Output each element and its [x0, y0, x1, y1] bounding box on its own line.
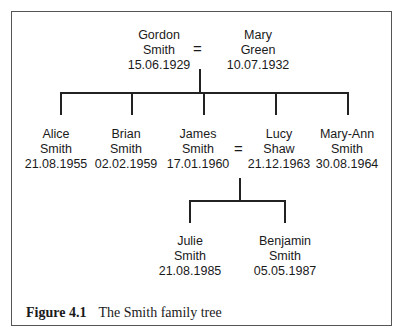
birth-date: 21.08.1985	[150, 264, 230, 279]
first-name: Gordon	[119, 28, 199, 43]
figure-caption-text: The Smith family tree	[98, 305, 221, 320]
connector-line	[131, 92, 133, 115]
connector-line	[189, 200, 191, 223]
person-mary-green: Mary Green 10.07.1932	[218, 28, 298, 73]
connector-line	[347, 92, 349, 115]
connector-line	[199, 69, 201, 93]
first-name: Benjamin	[245, 234, 325, 249]
connector-line	[60, 92, 349, 94]
last-name: Smith	[86, 142, 166, 157]
last-name: Smith	[119, 43, 199, 58]
first-name: Brian	[86, 127, 166, 142]
person-james-smith: James Smith 17.01.1960	[158, 127, 238, 172]
connector-line	[203, 92, 205, 115]
last-name: Smith	[245, 249, 325, 264]
figure-caption: Figure 4.1The Smith family tree	[26, 305, 222, 321]
connector-line	[275, 92, 277, 115]
connector-line	[60, 92, 62, 115]
last-name: Smith	[307, 142, 387, 157]
connector-line	[284, 200, 286, 223]
birth-date: 15.06.1929	[119, 58, 199, 73]
first-name: James	[158, 127, 238, 142]
last-name: Green	[218, 43, 298, 58]
connector-line	[239, 178, 241, 201]
person-brian-smith: Brian Smith 02.02.1959	[86, 127, 166, 172]
person-alice-smith: Alice Smith 21.08.1955	[16, 127, 96, 172]
birth-date: 05.05.1987	[245, 264, 325, 279]
person-benjamin-smith: Benjamin Smith 05.05.1987	[245, 234, 325, 279]
birth-date: 30.08.1964	[307, 157, 387, 172]
person-gordon-smith: Gordon Smith 15.06.1929	[119, 28, 199, 73]
marriage-symbol: =	[193, 40, 202, 57]
figure-label: Figure 4.1	[26, 305, 86, 320]
person-mary-ann-smith: Mary-Ann Smith 30.08.1964	[307, 127, 387, 172]
birth-date: 02.02.1959	[86, 157, 166, 172]
first-name: Mary-Ann	[307, 127, 387, 142]
connector-line	[189, 200, 285, 202]
last-name: Smith	[158, 142, 238, 157]
first-name: Alice	[16, 127, 96, 142]
person-julie-smith: Julie Smith 21.08.1985	[150, 234, 230, 279]
first-name: Julie	[150, 234, 230, 249]
last-name: Smith	[16, 142, 96, 157]
birth-date: 10.07.1932	[218, 58, 298, 73]
first-name: Mary	[218, 28, 298, 43]
birth-date: 21.08.1955	[16, 157, 96, 172]
last-name: Smith	[150, 249, 230, 264]
birth-date: 17.01.1960	[158, 157, 238, 172]
